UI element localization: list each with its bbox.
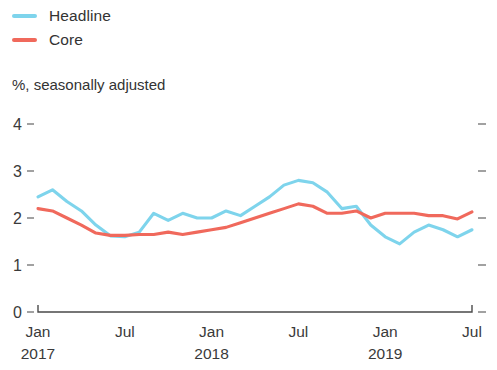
x-tick-label: Jan [373, 323, 398, 340]
x-tick-year-label: 2018 [194, 345, 228, 362]
y-tick-label: 1 [13, 257, 22, 274]
x-tick-label: Jan [199, 323, 224, 340]
x-tick-label: Jan [26, 323, 51, 340]
x-axis-line [38, 305, 472, 312]
x-tick-label: Jul [288, 323, 308, 340]
x-tick-year-label: 2019 [368, 345, 402, 362]
x-tick-label: Jul [462, 323, 482, 340]
x-tick-label: Jul [115, 323, 135, 340]
x-tick-year-label: 2017 [21, 345, 55, 362]
x-axis-ticks: Jan2017JulJan2018JulJan2019Jul [21, 323, 482, 362]
series-group [38, 180, 472, 243]
y-tick-label: 3 [13, 163, 22, 180]
chart-container: Headline Core %, seasonally adjusted 012… [0, 0, 497, 370]
y-axis-ticks: 01234 [13, 116, 34, 321]
y-tick-label: 4 [13, 116, 22, 133]
chart-plot-area: 01234 Jan2017JulJan2018JulJan2019Jul [0, 0, 497, 370]
y-tick-label: 0 [13, 304, 22, 321]
axis-line-group [38, 305, 472, 312]
y-axis-ticks-right [478, 124, 486, 312]
y-tick-label: 2 [13, 210, 22, 227]
